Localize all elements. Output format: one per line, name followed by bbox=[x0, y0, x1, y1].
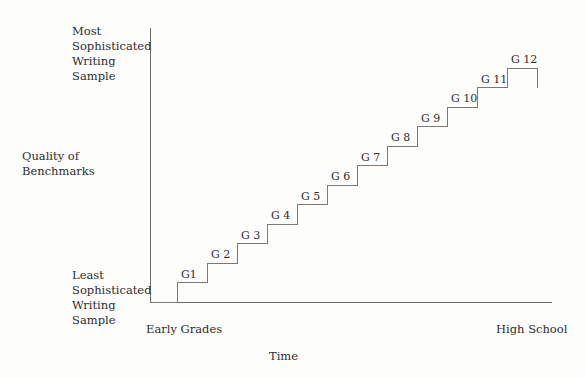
step-label: G 2 bbox=[211, 248, 230, 261]
step-label: G 11 bbox=[481, 73, 507, 86]
y-axis-title: Quality of Benchmarks bbox=[22, 149, 142, 179]
step-label: G 7 bbox=[361, 151, 380, 164]
x-axis-title: Time bbox=[269, 349, 298, 363]
x-axis-line bbox=[150, 302, 552, 303]
y-axis-line bbox=[150, 28, 151, 303]
staircase-path bbox=[150, 68, 538, 302]
x-axis-left-label: Early Grades bbox=[146, 322, 222, 336]
y-axis-bottom-label: Least Sophisticated Writing Sample bbox=[72, 268, 144, 328]
step-label: G 6 bbox=[331, 170, 350, 183]
step-label: G 3 bbox=[241, 229, 260, 242]
step-label: G 9 bbox=[421, 112, 440, 125]
chart-canvas: Most Sophisticated Writing Sample Qualit… bbox=[0, 0, 586, 378]
step-label: G 10 bbox=[451, 92, 477, 105]
step-label: G 5 bbox=[301, 190, 320, 203]
step-label: G1 bbox=[181, 268, 197, 281]
step-label: G 12 bbox=[511, 53, 537, 66]
step-label: G 4 bbox=[271, 209, 290, 222]
step-label: G 8 bbox=[391, 131, 410, 144]
y-axis-top-label: Most Sophisticated Writing Sample bbox=[72, 24, 144, 84]
x-axis-right-label: High School bbox=[496, 322, 567, 336]
